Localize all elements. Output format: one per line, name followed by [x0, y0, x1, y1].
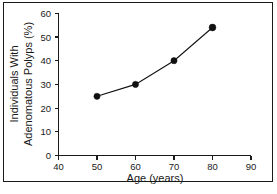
x-tick-label-80: 80 [207, 161, 218, 172]
y-tick-label-50: 50 [40, 32, 51, 43]
x-tick-label-40: 40 [53, 161, 64, 172]
series-line-path [97, 28, 213, 97]
y-tick-label-30: 30 [40, 79, 51, 90]
y-axis-title-line2: Adenomatous Polyps (%) [22, 22, 34, 146]
data-point-age-70 [171, 58, 177, 64]
data-point-age-80 [209, 24, 216, 31]
figure-root: 0 10 20 30 40 50 60 40 50 60 70 80 90 [0, 0, 277, 194]
y-tick-label-20: 20 [40, 103, 51, 114]
y-axis-title-line1: Individuals With [8, 45, 20, 122]
y-tick-label-0: 0 [46, 150, 51, 161]
data-point-age-50 [94, 93, 100, 99]
x-tick-label-60: 60 [130, 161, 141, 172]
x-tick-label-90: 90 [246, 161, 257, 172]
x-tick-marks [59, 156, 252, 161]
data-series-group [94, 24, 216, 99]
data-point-age-60 [132, 81, 138, 87]
chart-canvas: 0 10 20 30 40 50 60 40 50 60 70 80 90 [0, 0, 277, 194]
x-tick-label-70: 70 [169, 161, 180, 172]
y-tick-label-40: 40 [40, 55, 51, 66]
x-tick-labels: 40 50 60 70 80 90 [53, 161, 256, 172]
x-tick-label-50: 50 [92, 161, 103, 172]
y-tick-label-60: 60 [40, 8, 51, 19]
y-tick-label-10: 10 [40, 126, 51, 137]
y-tick-labels: 0 10 20 30 40 50 60 [40, 8, 51, 161]
x-axis-title: Age (years) [127, 172, 184, 184]
y-axis-title: Individuals With Adenomatous Polyps (%) [8, 22, 34, 146]
